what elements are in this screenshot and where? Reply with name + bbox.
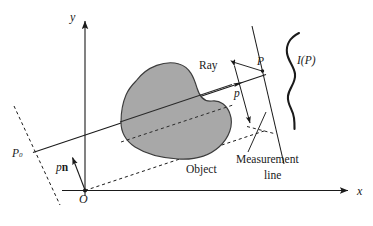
pn-unit-vector-part: n xyxy=(62,161,68,173)
measurement-line-label-row1: Measurement xyxy=(236,154,299,166)
diagram-canvas xyxy=(0,0,373,226)
distance-p-label: p xyxy=(234,88,240,100)
measurement-line xyxy=(252,26,284,164)
intensity-label: I(P) xyxy=(297,55,316,67)
pn-vector-label: pn xyxy=(56,162,68,174)
point-p-label: P xyxy=(257,56,264,68)
ray-geometry-diagram: y x O Ray P P0 I(P) p pn Object Measurem… xyxy=(0,0,373,226)
point-p0-subscript: 0 xyxy=(19,151,23,159)
point-p0-label: P0 xyxy=(12,148,23,160)
pn-vector-arrow xyxy=(73,158,86,191)
intensity-wavy-curve xyxy=(287,33,299,129)
measurement-label-leader-line xyxy=(248,112,266,152)
origin-label: O xyxy=(79,193,88,205)
object-label: Object xyxy=(186,164,217,176)
ray-label: Ray xyxy=(199,60,218,72)
y-axis-label: y xyxy=(70,11,75,23)
pn-foot-segment xyxy=(70,145,85,149)
x-axis-label: x xyxy=(357,185,362,197)
dashed-baseline-connector xyxy=(247,127,276,135)
point-p0-letter: P xyxy=(12,147,19,159)
measurement-line-label-row2: line xyxy=(264,170,281,182)
